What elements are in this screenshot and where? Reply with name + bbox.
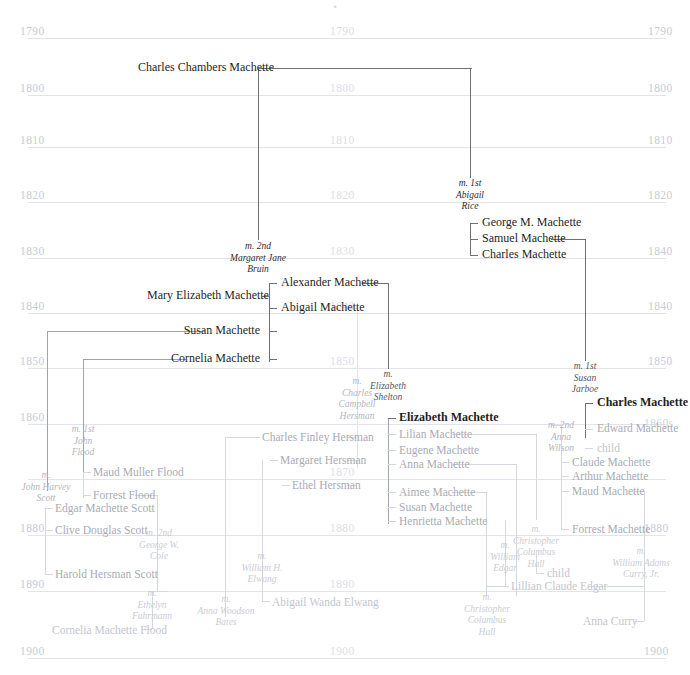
marriage-line-1: William H.: [234, 563, 290, 575]
person-claude-machette[interactable]: Claude Machette: [572, 456, 650, 468]
marriage-line-2: Jarboe: [554, 384, 616, 396]
person-anna-curry[interactable]: Anna Curry: [583, 615, 638, 627]
person-child-1[interactable]: child: [597, 442, 620, 454]
line-tick-abigail-m: [269, 308, 277, 309]
marriage-christopher-columbus-hall-2: m. Christopher Columbus Hall: [456, 592, 518, 638]
year-label-left-1800: 1800: [20, 83, 45, 95]
line-tick-cornelia-m: [269, 359, 277, 360]
person-abigail-wanda-elwang[interactable]: Abigail Wanda Elwang: [272, 596, 379, 608]
line-tick-susan-m2: [388, 507, 396, 508]
person-harold-hersman-scott[interactable]: Harold Hersman Scott: [55, 568, 158, 580]
person-aimee-machette[interactable]: Aimee Machette: [399, 486, 475, 498]
top-tick-mark: ▪: [334, 2, 337, 11]
marriage-prefix: m.: [18, 470, 74, 482]
line-tick-maud-m: [561, 491, 569, 492]
person-maud-muller-flood[interactable]: Maud Muller Flood: [93, 466, 184, 478]
genealogy-chart: ▪ 1790 1800 1810 1820 1830 1840 1850 186…: [0, 0, 690, 675]
person-samuel-machette[interactable]: Samuel Machette: [482, 232, 566, 245]
person-charles-machette-3[interactable]: Charles Machette: [597, 396, 688, 409]
line-tick-forrest-flood: [83, 495, 91, 496]
person-cornelia-machette[interactable]: Cornelia Machette: [155, 352, 260, 365]
marriage-line-1: Margaret Jane: [212, 253, 304, 265]
line-bracket-margaret-children: [269, 283, 270, 362]
marriage-line-3: Hersman: [329, 411, 385, 423]
year-label-left-1820: 1820: [20, 190, 45, 202]
year-label-center-1850: 1850: [330, 356, 355, 368]
marriage-line-2: Columbus: [505, 547, 567, 559]
person-edward-machette[interactable]: Edward Machette: [597, 422, 678, 434]
person-maud-machette[interactable]: Maud Machette: [572, 485, 645, 497]
year-label-center-1820: 1820: [330, 190, 355, 202]
line-susan-trunk: [47, 331, 48, 491]
year-label-left-1880: 1880: [20, 523, 45, 535]
person-lillian-claude-edgar[interactable]: Lillian Claude Edgar: [511, 580, 607, 592]
person-charles-machette-2[interactable]: Charles Machette: [482, 248, 566, 261]
year-label-left-1810: 1810: [20, 135, 45, 147]
person-cornelia-machette-flood[interactable]: Cornelia Machette Flood: [52, 624, 167, 636]
person-charles-chambers-machette[interactable]: Charles Chambers Machette: [138, 61, 274, 74]
person-anna-machette[interactable]: Anna Machette: [399, 458, 470, 470]
line-tick-lillian-edgar: [497, 586, 509, 587]
person-alexander-machette[interactable]: Alexander Machette: [281, 276, 379, 289]
person-henrietta-machette[interactable]: Henrietta Machette: [399, 515, 487, 527]
gridline-1790: [28, 38, 666, 39]
marriage-prefix: m.: [604, 546, 678, 558]
line-samuel-spouse-trunk: [585, 239, 586, 361]
person-susan-machette[interactable]: Susan Machette: [160, 324, 260, 337]
marriage-george-w-cole: m. 2nd George W. Cole: [131, 528, 187, 563]
marriage-line-2: Campbell: [329, 399, 385, 411]
line-tick-charles-finley: [252, 437, 260, 438]
marriage-prefix: m.: [329, 376, 385, 388]
year-label-center-1890: 1890: [330, 579, 355, 591]
line-hersman-bracket: [252, 437, 253, 438]
marriage-line-1: Christopher: [505, 536, 567, 548]
marriage-line-2: Bates: [195, 617, 257, 629]
marriage-line-1: Susan: [554, 373, 616, 385]
year-label-center-1900: 1900: [330, 646, 355, 658]
marriage-john-flood: m. 1st John Flood: [58, 424, 108, 459]
person-lilian-machette[interactable]: Lilian Machette: [399, 428, 472, 440]
marriage-anna-woodson-bates: m. Anna Woodson Bates: [195, 594, 257, 629]
line-tick-elizabeth-m: [388, 418, 396, 419]
year-label-right-1850: 1850: [648, 356, 673, 368]
marriage-prefix: m.: [124, 588, 180, 600]
line-tick-abigail-wanda: [262, 601, 270, 602]
person-abigail-machette[interactable]: Abigail Machette: [281, 301, 365, 314]
year-label-right-1810: 1810: [648, 135, 673, 147]
person-elizabeth-machette[interactable]: Elizabeth Machette: [399, 411, 499, 424]
line-tick-charles3: [585, 403, 593, 404]
person-forrest-machette[interactable]: Forrest Machette: [572, 523, 650, 535]
marriage-line-2: Flood: [58, 447, 108, 459]
line-tick-charles2: [470, 255, 478, 256]
person-susan-machette-2[interactable]: Susan Machette: [399, 501, 472, 513]
marriage-line-1: Charles: [329, 388, 385, 400]
line-trunk-margaret-bruin: [258, 68, 259, 240]
marriage-line-2: Columbus: [456, 615, 518, 627]
marriage-line-1: John: [58, 436, 108, 448]
person-arthur-machette[interactable]: Arthur Machette: [572, 470, 648, 482]
year-label-left-1830: 1830: [20, 246, 45, 258]
person-forrest-flood[interactable]: Forrest Flood: [93, 489, 155, 501]
year-label-center-1830: 1830: [330, 246, 355, 258]
person-george-m-machette[interactable]: George M. Machette: [482, 216, 581, 229]
person-ethel-hersman[interactable]: Ethel Hersman: [292, 479, 361, 491]
marriage-anna-wilson: m. 2nd Anna Wilson: [531, 420, 591, 455]
line-tick-harold-scott: [45, 574, 53, 575]
year-label-left-1900: 1900: [20, 646, 45, 658]
person-margaret-hersman[interactable]: Margaret Hersman: [280, 454, 366, 466]
person-mary-elizabeth-machette[interactable]: Mary Elizabeth Machette: [147, 289, 260, 302]
line-tick-ethel-hersman: [282, 485, 290, 486]
marriage-line-2: Rice: [438, 201, 502, 213]
year-label-left-1890: 1890: [20, 579, 45, 591]
year-label-left-1860: 1860: [20, 412, 45, 424]
gridline-1830: [28, 258, 666, 259]
year-label-center-1790: 1790: [330, 26, 355, 38]
year-label-center-1810: 1810: [330, 135, 355, 147]
line-tick-anna-m: [388, 464, 396, 465]
line-charles-finley-lead: [225, 437, 252, 438]
line-bracket-scott-children: [45, 508, 46, 575]
line-tick-lilian: [388, 434, 396, 435]
person-eugene-machette[interactable]: Eugene Machette: [399, 444, 479, 456]
person-charles-finley-hersman[interactable]: Charles Finley Hersman: [262, 431, 374, 443]
line-tick-margaret-hersman: [270, 460, 278, 461]
